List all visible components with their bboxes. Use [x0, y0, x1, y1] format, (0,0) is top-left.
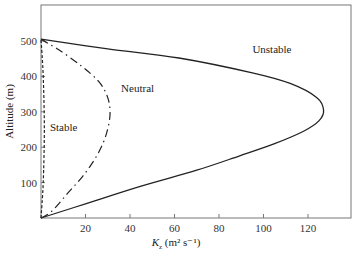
curve-label-unstable: Unstable [252, 43, 291, 55]
y-tick-label: 500 [21, 35, 38, 47]
y-tick-label: 100 [21, 177, 38, 189]
series-line-unstable [41, 39, 324, 218]
curve-label-stable: Stable [50, 121, 78, 133]
x-tick-label: 20 [80, 222, 92, 234]
x-tick-label: 60 [169, 222, 181, 234]
y-axis-title: Altitude (m) [3, 84, 16, 139]
series-line-stable [41, 39, 44, 218]
x-tick-label: 80 [214, 222, 226, 234]
x-tick-label: 120 [300, 222, 317, 234]
y-tick-label: 200 [21, 141, 38, 153]
series-group [41, 39, 324, 218]
plot-frame [41, 5, 351, 218]
x-axis-title: Kz (m² s⁻¹) [151, 236, 201, 251]
curve-label-neutral: Neutral [121, 82, 154, 94]
x-axis: 20406080100120 [80, 214, 317, 234]
x-axis-units: (m² s⁻¹) [162, 236, 201, 249]
chart: 100200300400500 20406080100120 UnstableN… [0, 0, 357, 257]
y-tick-label: 400 [21, 70, 38, 82]
x-tick-label: 40 [125, 222, 137, 234]
y-tick-label: 300 [21, 106, 38, 118]
x-tick-label: 100 [255, 222, 272, 234]
